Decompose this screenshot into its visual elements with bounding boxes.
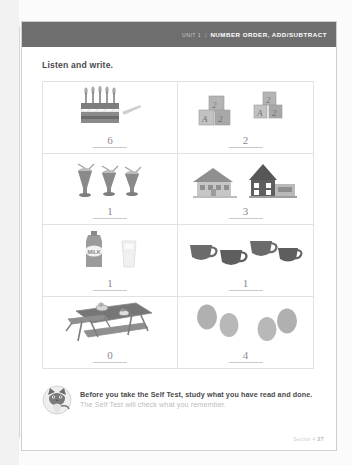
unit-title: NUMBER ORDER, ADD/SUBTRACT [210,31,327,38]
two-houses-illustration [178,158,313,200]
three-milkshakes-illustration [43,158,177,200]
self-test-note: Before you take the Self Test, study wha… [42,380,314,420]
answer-field-houses[interactable]: 3 [226,205,266,219]
egg-icon [191,303,301,343]
answer-field-milk[interactable]: 1 [90,277,130,291]
exercise-cell-picnic-table[interactable]: 0 [43,297,178,369]
cup-icon [188,235,304,271]
instruction-text: Listen and write. [42,60,113,70]
answer-value: 1 [90,205,130,217]
section-label: Section 4 [294,437,316,442]
answer-underline [93,147,127,148]
answer-value: 6 [90,134,130,146]
answer-underline [229,362,263,363]
picnic-table-icon [58,297,162,343]
alphabet-blocks-illustration: 2 A 2 2 A 2 [178,86,313,128]
alphabet-blocks-icon: 2 A 2 2 A 2 [193,86,299,128]
exercise-cell-milkshakes[interactable]: 1 [43,154,178,226]
exercise-cell-cups[interactable]: 1 [178,225,313,297]
svg-text:2: 2 [218,114,223,124]
svg-text:A: A [256,108,263,118]
house-icon [191,160,301,200]
answer-value: 0 [90,349,130,361]
milk-carton-and-glass-illustration: MILK [43,229,177,271]
answer-field-cake[interactable]: 6 [90,134,130,148]
knife-icon [123,106,141,114]
svg-text:A: A [201,114,208,124]
answer-underline [229,147,263,148]
milk-carton-icon: MILK [72,227,148,271]
picnic-table-illustration [43,301,177,343]
answer-value: 1 [90,277,130,289]
facing-page-margin [0,0,19,465]
answer-field-milkshakes[interactable]: 1 [90,205,130,219]
answer-underline [93,218,127,219]
answer-value: 3 [226,205,266,217]
four-eggs-illustration [178,301,313,343]
unit-header-bar: Unit 1 | NUMBER ORDER, ADD/SUBTRACT [22,22,336,47]
exercise-cell-houses[interactable]: 3 [178,154,313,226]
glass-icon [122,241,136,267]
svg-text:2: 2 [266,95,271,105]
page-number: 27 [317,436,324,442]
answer-underline [229,218,263,219]
svg-text:2: 2 [272,108,277,118]
self-test-bold-text: Before you take the Self Test, study wha… [80,390,312,399]
svg-text:2: 2 [212,100,217,110]
four-cups-illustration [178,229,313,271]
answer-underline [93,362,127,363]
exercise-cell-cake[interactable]: 6 [43,82,178,154]
exercise-cell-milk[interactable]: MILK 1 [43,225,178,297]
answer-field-eggs[interactable]: 4 [226,349,266,363]
cake-icon [79,84,141,128]
answer-value: 4 [226,349,266,361]
page-footer: Section 4 27 [294,436,324,442]
milk-carton-label: MILK [87,249,100,255]
milkshake-icon [74,158,146,200]
answer-field-blocks[interactable]: 2 [226,134,266,148]
self-test-text: Before you take the Self Test, study wha… [80,390,314,411]
worksheet-page: Unit 1 | NUMBER ORDER, ADD/SUBTRACT List… [21,21,337,451]
answer-value: 2 [226,134,266,146]
unit-label: Unit 1 [182,32,201,38]
cat-mascot-icon [42,385,72,415]
answer-field-cups[interactable]: 1 [226,277,266,291]
answer-value: 1 [226,277,266,289]
birthday-cake-and-knife-illustration [43,86,177,128]
self-test-light-text: The Self Test will check what you rememb… [80,400,226,409]
answer-underline [229,290,263,291]
page-edge-line [19,26,20,438]
exercise-cell-eggs[interactable]: 4 [178,297,313,369]
exercise-cell-blocks[interactable]: 2 A 2 2 A 2 [178,82,313,154]
unit-separator: | [205,32,206,38]
exercise-grid: 6 2 A 2 2 [42,81,314,369]
answer-underline [93,290,127,291]
scanned-page-background: Unit 1 | NUMBER ORDER, ADD/SUBTRACT List… [0,0,352,465]
answer-field-picnic-table[interactable]: 0 [90,349,130,363]
